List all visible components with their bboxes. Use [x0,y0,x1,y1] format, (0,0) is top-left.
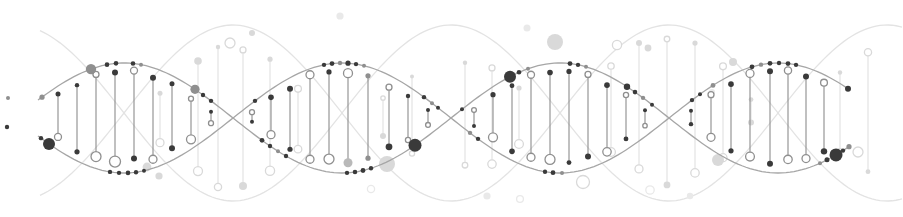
strand-dot [825,157,830,162]
main-rung-top-dot [490,92,495,97]
main-rung-top-dot [803,73,809,79]
floating-ring [646,186,654,194]
floating-dot [645,45,652,52]
main-rung-top-ring [784,67,791,74]
light-rung-top-dot [267,57,272,62]
dna-helix-illustration [0,0,903,217]
strand-dot [846,144,851,149]
strand-dot [190,85,199,94]
main-rung-top-dot [426,108,430,112]
floating-ring [577,176,590,189]
main-rung-top-dot [547,70,553,76]
strand-dot [86,64,96,74]
strand-dot [369,166,373,170]
light-rung-bottom-dot [664,182,671,189]
strand-dot [698,92,702,96]
strand-dot [650,103,654,107]
light-rung-top-ring [720,63,727,70]
strand-dot [338,61,342,65]
strand-dot [517,70,522,75]
floating-dot [6,96,10,100]
strand-dot [576,63,580,67]
strand-dot [134,170,138,174]
light-rung-bottom-dot [380,133,386,139]
main-rung-top-dot [767,68,773,74]
main-rung-top-ring [585,71,591,77]
main-rung-bottom-ring [643,123,647,127]
floating-ring [853,147,863,157]
strand-dot [543,170,547,174]
main-rung-bottom-dot [624,137,629,142]
strand-dot [322,63,326,67]
light-rung-bottom-ring [515,140,524,149]
strand-dot [430,101,434,105]
floating-dot [547,34,563,50]
main-rung-bottom-dot [287,147,292,152]
light-rung-bottom-dot [239,182,247,190]
main-rung-bottom-ring [209,121,214,126]
strand-dot [422,95,426,99]
main-rung-bottom-dot [472,124,476,128]
light-rung-top-ring [240,47,246,53]
strand-dot [504,71,516,83]
strand-dot [818,161,822,165]
main-rung-bottom-ring [603,148,611,156]
main-rung-bottom-dot [74,149,79,154]
strand-dot [108,170,112,174]
strand-dot [345,61,350,66]
light-rung-bottom-ring [265,166,274,175]
main-rung-bottom-dot [365,156,370,161]
main-rung-top-ring [746,69,754,77]
light-rung-bottom-ring [635,165,643,173]
strand-dot [551,170,556,175]
strand-dot [750,64,755,69]
main-rung-top-dot [604,82,610,88]
strand-dot [361,168,366,173]
strand-dot [468,131,472,135]
strand-dot [201,93,205,97]
strand-dot [568,61,573,66]
strand-dot [142,169,146,173]
light-rung-bottom-ring [691,169,699,177]
main-rung-bottom-ring [426,122,431,127]
strand-dot [353,170,358,175]
main-rung-bottom-ring [187,135,196,144]
main-rung-bottom-ring [110,156,121,167]
main-rung-bottom-dot [567,160,572,165]
main-rung-top-ring [131,67,138,74]
main-rung-bottom-ring [324,154,334,164]
strand-dot [845,86,851,92]
main-rung-bottom-ring [802,155,810,163]
floating-dot [729,58,737,66]
main-rung-top-dot [287,86,293,92]
main-rung-bottom-dot [689,122,693,126]
main-rung-bottom-ring [489,133,498,142]
floating-dot [687,193,693,199]
main-rung-top-dot [75,83,79,87]
light-rung-top-ring [381,96,385,100]
main-rung-bottom-dot [728,148,733,153]
main-rung-top-dot [56,92,61,97]
strand-dot [276,149,280,153]
main-rung-top-ring [306,71,314,79]
light-rung-top-dot [692,41,697,46]
strand-dot [476,137,480,141]
light-rung-top-dot [158,91,163,96]
strand-dot [409,139,422,152]
light-rung-top-ring [864,49,871,56]
main-rung-top-dot [112,69,118,75]
strand-dot [436,106,440,110]
main-rung-top-ring [250,110,255,115]
strand-dot [131,61,136,66]
light-rung-bottom-ring [156,139,164,147]
main-rung-bottom-ring [784,155,792,163]
main-rung-top-dot [170,81,175,86]
main-rung-top-dot [209,110,213,114]
light-rung-top-ring [489,65,495,71]
light-rung-top-ring [608,63,614,69]
strand-dot [284,154,288,158]
main-rung-bottom-ring [545,154,555,164]
strand-dot [117,171,121,175]
main-rung-top-dot [728,81,734,87]
strand-dot [260,138,265,143]
